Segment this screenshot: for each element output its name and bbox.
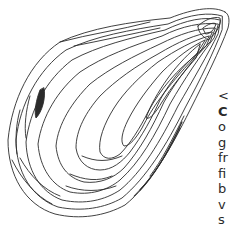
caption-line: s [218,212,232,228]
shell-illustration [0,0,232,230]
caption-line: fi [218,166,232,182]
caption-line-heading: C [218,104,232,120]
caption-line: < [218,88,232,104]
caption-text: < C o g fr fi b v s [218,88,232,228]
caption-line: fr [218,150,232,166]
caption-line: b [218,181,232,197]
caption-line: v [218,197,232,213]
caption-line: o [218,119,232,135]
caption-line: g [218,135,232,151]
